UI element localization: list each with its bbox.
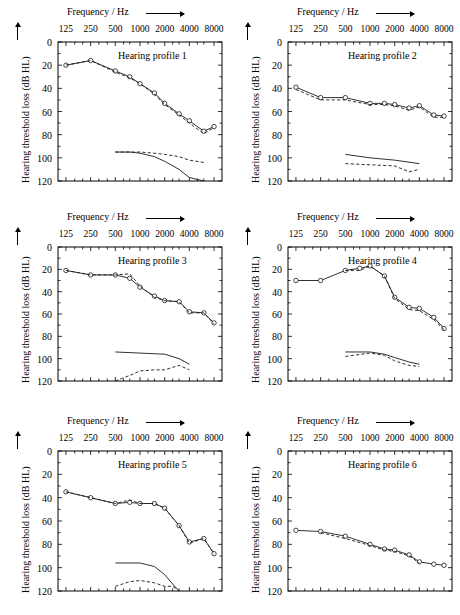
data-point-marker xyxy=(417,560,421,564)
series-line-lower-dashed xyxy=(345,353,419,366)
plot-area xyxy=(0,405,230,615)
series-line-threshold-solid-markers xyxy=(296,266,444,329)
series-line-threshold-solid-markers xyxy=(296,530,444,565)
data-point-marker xyxy=(432,315,436,319)
data-point-marker xyxy=(318,95,322,99)
data-point-marker xyxy=(442,563,446,567)
series-line-lower-solid xyxy=(115,352,189,364)
series-line-lower-solid xyxy=(115,563,179,591)
series-line-threshold-dashed xyxy=(345,266,444,330)
series-line-lower-solid xyxy=(115,152,203,181)
data-point-marker xyxy=(358,266,362,270)
chart-panel-6: Frequency / HzHearing threshold loss (dB… xyxy=(230,405,460,615)
data-point-marker xyxy=(128,276,132,280)
chart-panel-4: Frequency / HzHearing threshold loss (dB… xyxy=(230,205,460,405)
data-point-marker xyxy=(294,528,298,532)
data-point-marker xyxy=(212,321,216,325)
series-line-lower-dashed xyxy=(115,365,189,381)
axes-frame xyxy=(58,247,222,381)
plot-area xyxy=(230,0,460,205)
data-point-marker xyxy=(318,278,322,282)
plot-area xyxy=(0,0,230,205)
series-line-lower-dashed xyxy=(115,152,203,162)
data-point-marker xyxy=(294,85,298,89)
chart-panel-2: Frequency / HzHearing threshold loss (dB… xyxy=(230,0,460,205)
chart-panel-3: Frequency / HzHearing threshold loss (dB… xyxy=(0,205,230,405)
data-point-marker xyxy=(294,278,298,282)
series-line-lower-solid xyxy=(345,154,419,163)
data-point-marker xyxy=(212,124,216,128)
series-line-threshold-dashed xyxy=(321,533,420,563)
axes-frame xyxy=(288,42,452,181)
axes-frame xyxy=(58,42,222,181)
data-point-marker xyxy=(392,295,396,299)
chart-panel-5: Frequency / HzHearing threshold loss (dB… xyxy=(0,405,230,615)
axes-frame xyxy=(58,451,222,591)
data-point-marker xyxy=(417,306,421,310)
series-line-threshold-solid-markers xyxy=(66,270,214,322)
series-line-lower-solid xyxy=(345,352,419,364)
plot-area xyxy=(230,205,460,405)
data-point-marker xyxy=(407,305,411,309)
series-line-threshold-dashed xyxy=(66,270,214,324)
plot-area xyxy=(230,405,460,615)
series-line-lower-dashed xyxy=(115,581,179,592)
data-point-marker xyxy=(343,95,347,99)
series-line-lower-dashed xyxy=(345,164,419,172)
data-point-marker xyxy=(128,75,132,79)
plot-area xyxy=(0,205,230,405)
figure-panel-grid: Frequency / HzHearing threshold loss (dB… xyxy=(0,0,460,615)
data-point-marker xyxy=(432,562,436,566)
chart-panel-1: Frequency / HzHearing threshold loss (dB… xyxy=(0,0,230,205)
axes-frame xyxy=(288,451,452,591)
